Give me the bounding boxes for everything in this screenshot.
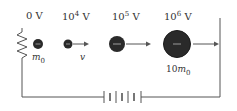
particle-4 [164, 31, 220, 58]
voltage-label-1: 104 V [62, 10, 90, 22]
voltage-label-0: 0 V [26, 10, 43, 21]
battery-icon [104, 91, 141, 103]
final-mass-label: 10m0 [166, 64, 190, 77]
velocity-label: v [80, 52, 85, 62]
voltage-label-3: 106 V [164, 10, 192, 22]
accelerator-diagram: 0 V 104 V 105 V 106 V m0 v 10m0 [0, 0, 237, 111]
initial-mass-label: m0 [32, 52, 45, 65]
particle-3 [109, 36, 151, 52]
particle-2 [64, 40, 90, 49]
voltage-label-2: 105 V [112, 10, 140, 22]
arrow-icon [146, 42, 151, 47]
circuit-wire [17, 18, 220, 97]
particle-1 [33, 39, 43, 49]
arrow-icon [84, 42, 89, 47]
resistor-spring-icon [17, 32, 27, 58]
arrow-icon [214, 42, 219, 47]
